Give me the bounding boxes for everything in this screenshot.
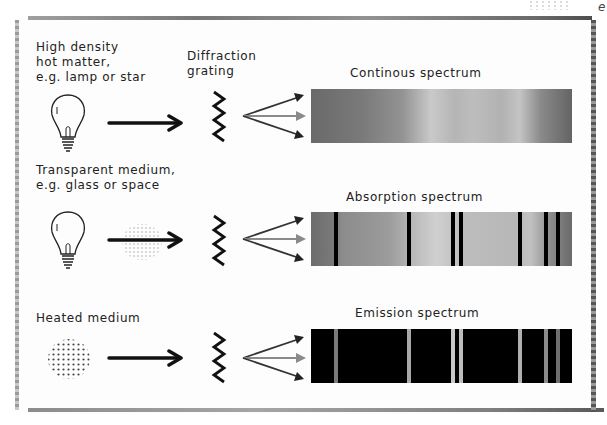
emission-spectrum-bar — [311, 329, 572, 383]
spectral-line — [556, 212, 560, 266]
spectral-line — [556, 329, 560, 383]
row3-source-label: Heated medium — [36, 311, 140, 326]
spectral-line — [544, 329, 548, 383]
heated-gas-cloud-icon — [46, 337, 92, 381]
spectral-line — [407, 329, 411, 383]
frame-border-right — [591, 20, 596, 412]
spectral-line — [459, 329, 463, 383]
diffraction-grating-icon — [210, 89, 228, 145]
row2-source-label: Transparent medium, e.g. glass or space — [36, 163, 175, 193]
frame-border-top — [28, 16, 592, 20]
diffracted-rays-icon — [240, 332, 308, 384]
corner-mark: e — [598, 0, 605, 14]
arrow-right-icon — [107, 349, 185, 367]
spectral-line — [334, 329, 338, 383]
spectral-line — [451, 329, 455, 383]
absorption-spectrum-bar — [311, 212, 572, 266]
spectral-line — [544, 212, 548, 266]
absorption-spectrum-title: Absorption spectrum — [346, 190, 483, 204]
spectral-line — [334, 212, 338, 266]
arrow-right-icon — [107, 114, 185, 132]
spectral-line — [407, 212, 411, 266]
grating-label: Diffraction grating — [187, 49, 257, 79]
corner-dots-decoration — [528, 0, 568, 10]
lightbulb-icon — [48, 93, 88, 158]
continuous-spectrum-title: Continous spectrum — [350, 66, 482, 80]
spectral-line — [518, 212, 522, 266]
diffracted-rays-icon — [240, 90, 308, 142]
row1-source-label: High density hot matter, e.g. lamp or st… — [36, 40, 146, 85]
emission-spectrum-title: Emission spectrum — [355, 306, 479, 320]
continuous-spectrum-bar — [311, 89, 572, 143]
diffracted-rays-icon — [240, 213, 308, 265]
frame-border-bottom — [28, 408, 604, 412]
lightbulb-icon — [48, 210, 88, 275]
spectral-line — [451, 212, 455, 266]
spectral-line — [459, 212, 463, 266]
diffraction-grating-icon — [210, 330, 228, 386]
spectral-line — [518, 329, 522, 383]
arrow-right-icon — [107, 231, 185, 249]
diffraction-grating-icon — [210, 213, 228, 269]
frame-border-left — [15, 20, 19, 410]
